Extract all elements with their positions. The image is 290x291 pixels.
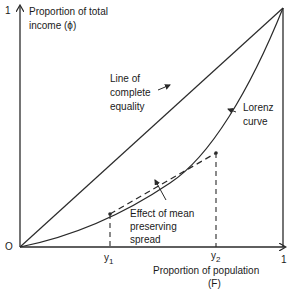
y-axis-label-line1: Proportion of total [29, 6, 108, 18]
equality-label-line2: complete [110, 87, 151, 99]
lorenz-label-line2: curve [243, 116, 267, 128]
x-axis-label-line1: Proportion of population [153, 265, 259, 277]
origin-label: O [5, 241, 13, 253]
tick-y2: y2 [211, 250, 220, 266]
point-y1 [108, 212, 112, 216]
lorenz-label-line1: Lorenz [243, 102, 274, 114]
equality-label-line3: equality [110, 101, 144, 113]
effect-label-line3: spread [130, 234, 161, 246]
lorenz-diagram [0, 0, 290, 291]
tick-y2-sub: 2 [216, 255, 220, 264]
x-axis-max-tick: 1 [281, 254, 287, 266]
mean-preserving-spread-chord [110, 153, 216, 214]
point-y2 [214, 151, 218, 155]
y-axis-label-line2: income (ϕ) [29, 20, 76, 32]
tick-y1-sub: 1 [109, 257, 113, 266]
effect-label-line2: preserving [130, 221, 177, 233]
x-axis-label-line2: (F) [208, 278, 221, 290]
effect-label-line1: Effect of mean [130, 208, 194, 220]
tick-y1: y1 [104, 252, 113, 268]
equality-pointer-arrow [158, 85, 170, 90]
equality-label-line1: Line of [110, 73, 140, 85]
y-axis-max-tick: 1 [5, 5, 11, 17]
